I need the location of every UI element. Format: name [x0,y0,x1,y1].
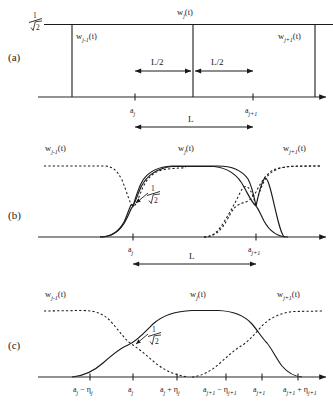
panel-a-label-wjp1: wj+1(t) [278,31,301,43]
panel-b: (b) 1 2 wj-1(t) [8,143,326,264]
panel-c-tick-label-1: aj [128,385,134,396]
panel-c-tick-label-3: aj+1 − ηj+1 [203,385,237,396]
panel-b-curve-wj [100,166,285,237]
panel-b-label-wjp1: wj+1(t) [283,143,306,155]
panel-c-tick-text-4: aj+1 [253,385,265,396]
panel-a-measure-lhalf-right: L/2 [195,57,253,71]
panel-a-amplitude-label: 1 2 [29,11,72,32]
panel-c-label-wjp1: wj+1(t) [277,289,300,301]
panel-a-label-wjm1: wj-1(t) [76,31,97,43]
panel-a-measure-lhalf-left: L/2 [135,57,191,71]
panel-c-tick-text-2: aj + ηj [160,385,180,396]
panel-b-curve-wj-main [100,167,288,238]
panel-c-tick-text-1: aj [128,385,134,396]
panel-c-wjm1-text: wj-1(t) [45,289,66,301]
panel-c-tick-label-0: aj − ηj [73,385,93,396]
panel-a-wjp1-text: wj+1(t) [278,31,301,43]
panel-b-aj1-text: aj+1 [248,245,260,256]
panel-c-curve-wjm1 [44,311,186,377]
panel-c: (c) 1 2 wj-1(t) [8,289,326,396]
panel-c-wj-text: wj(t) [190,289,206,301]
panel-c-tick-label-2: aj + ηj [160,385,180,396]
panel-c-tick-text-3: aj+1 − ηj+1 [203,385,237,396]
panel-a-amplitude-numerator: 1 [33,11,37,20]
panel-a-aj1-text: aj+1 [245,106,257,117]
panel-c-label: (c) [8,339,21,352]
panel-c-curve-wj [72,311,302,378]
panel-b-label: (b) [8,209,21,222]
panel-a-wjm1-text: wj-1(t) [76,31,97,43]
panel-b-curve-wjm1 [44,166,186,206]
panel-a-amplitude-denominator: 2 [36,23,40,32]
panel-b-tick-label-aj: aj [128,245,134,256]
panel-a: (a) 1 2 wj-1(t) wj(t) [8,7,333,127]
panel-b-amplitude-denominator: 2 [154,196,158,205]
panel-b-label-wjm1: wj-1(t) [45,143,66,155]
panel-a-tick-label-aj1: aj+1 [245,106,257,117]
panel-b-amplitude-numerator: 1 [151,184,155,193]
panel-c-amplitude-denominator: 2 [155,337,159,346]
panel-b-label-wj: wj(t) [178,143,194,155]
panel-b-wjm1-text: wj-1(t) [45,143,66,155]
panel-c-tick-label-5: aj+1 + ηj+1 [283,385,317,396]
panel-b-wj-text: wj(t) [178,143,194,155]
panel-b-curve-wjp1 [204,166,322,237]
panel-b-tick-label-aj1: aj+1 [248,245,260,256]
figure-container: (a) 1 2 wj-1(t) wj(t) [0,0,333,412]
panel-a-tick-label-aj: aj [130,106,136,117]
panel-c-curve-wjp1 [192,311,322,377]
panel-a-lhalf-left-label: L/2 [151,57,164,67]
panel-c-tick-label-4: aj+1 [253,385,265,396]
panel-a-aj-text: aj [130,106,136,117]
panel-a-label-wj: wj(t) [177,7,193,19]
panel-a-lhalf-right-label: L/2 [211,57,224,67]
panel-b-aj-text: aj [128,245,134,256]
panel-b-measure-l: L [133,251,256,264]
panel-c-wjp1-text: wj+1(t) [277,289,300,301]
panel-c-label-wjm1: wj-1(t) [45,289,66,301]
panel-b-wjp1-text: wj+1(t) [283,143,306,155]
panel-a-wj-text: wj(t) [177,7,193,19]
panel-a-measure-l: L [135,114,253,127]
panel-c-tick-text-5: aj+1 + ηj+1 [283,385,317,396]
panel-c-tick-text-0: aj − ηj [73,385,93,396]
panel-c-label-wj: wj(t) [190,289,206,301]
panel-a-label: (a) [8,51,21,64]
panel-b-l-label: L [189,251,195,261]
panel-a-l-label: L [188,114,194,124]
panel-c-amplitude-numerator: 1 [152,325,156,334]
panel-b-curve-wjp1-raw [204,166,320,237]
